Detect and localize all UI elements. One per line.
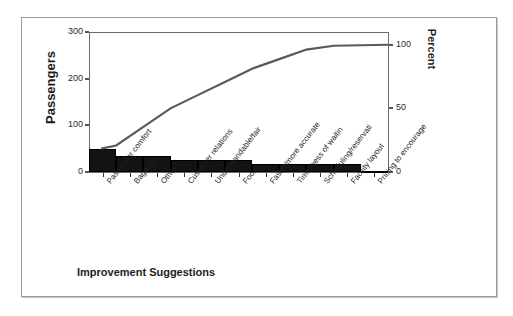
x-axis-tick bbox=[347, 173, 348, 177]
y-axis-left-tick bbox=[85, 124, 89, 126]
x-axis-tick bbox=[374, 173, 375, 177]
chart-frame: 0100200300 050100 Passenger comfortBagga… bbox=[21, 17, 497, 297]
x-axis-tick bbox=[293, 173, 294, 177]
chart-plot-area: 0100200300 050100 Passenger comfortBagga… bbox=[22, 18, 498, 298]
y-axis-right-tick bbox=[389, 44, 393, 46]
y-axis-left-tick-label: 200 bbox=[55, 73, 83, 83]
pareto-chart-screenshot: 0100200300 050100 Passenger comfortBagga… bbox=[0, 0, 513, 316]
y-axis-right-tick-label: 50 bbox=[396, 102, 426, 112]
y-axis-title: Passengers bbox=[43, 38, 58, 138]
x-axis-tick bbox=[184, 173, 185, 177]
x-axis-tick bbox=[103, 173, 104, 177]
x-axis-title: Improvement Suggestions bbox=[77, 266, 215, 278]
y-axis-left-tick-label: 100 bbox=[55, 119, 83, 129]
y-axis-right-tick-label: 0 bbox=[396, 166, 426, 176]
x-axis-tick bbox=[157, 173, 158, 177]
x-axis-tick bbox=[266, 173, 267, 177]
y-axis-left-tick-label: 0 bbox=[55, 166, 83, 176]
y-axis-right-line bbox=[388, 32, 389, 173]
x-axis-category-label: Faster/more accurate bbox=[268, 120, 322, 185]
y-axis-right-tick-label: 100 bbox=[396, 39, 426, 49]
x-axis-tick bbox=[211, 173, 212, 177]
y-axis-left-tick-label: 300 bbox=[55, 26, 83, 36]
plot-top-border bbox=[89, 32, 389, 33]
x-axis-category-label: Pricing to encourage bbox=[376, 122, 428, 185]
x-axis-tick bbox=[130, 173, 131, 177]
y-axis-right-tick bbox=[389, 107, 393, 109]
bar bbox=[89, 149, 116, 172]
y2-axis-title: Percent bbox=[426, 0, 438, 99]
x-axis-tick bbox=[239, 173, 240, 177]
y-axis-left-tick bbox=[85, 78, 89, 80]
y-axis-left-tick bbox=[85, 31, 89, 33]
x-axis-tick bbox=[320, 173, 321, 177]
